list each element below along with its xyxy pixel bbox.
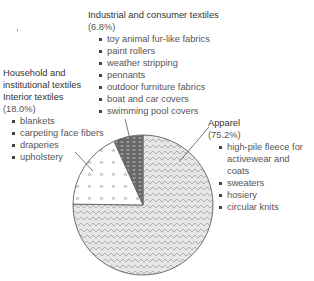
label-apparel-percent: (75.2%) [208, 129, 314, 141]
list-item-line1: high-pile fleece for [227, 141, 314, 153]
label-industrial-list: toy animal fur-like fabrics paint roller… [98, 33, 219, 117]
label-industrial-percent: (6.8%) [88, 21, 219, 33]
leader-line-industrial [125, 119, 130, 139]
list-item: hosiery [218, 189, 314, 201]
label-household-percent: (18.0%) [3, 103, 104, 115]
label-household-title-line3: Interior textiles [3, 91, 104, 103]
list-item: circular knits [218, 201, 314, 213]
label-apparel-list: high-pile fleece for activewear and coat… [218, 141, 314, 213]
list-item: boat and car covers [98, 93, 219, 105]
label-household-title-line1: Household and [3, 67, 104, 79]
label-apparel: Apparel (75.2%) high-pile fleece for act… [208, 117, 314, 213]
list-item: weather stripping [98, 57, 219, 69]
label-household-title-line2: institutional textiles [3, 79, 104, 91]
list-item: paint rollers [98, 45, 219, 57]
label-apparel-title: Apparel [208, 117, 314, 129]
label-industrial: Industrial and consumer textiles (6.8%) … [88, 9, 219, 117]
list-item: blankets [11, 115, 104, 127]
list-item: pennants [98, 69, 219, 81]
list-item: sweaters [218, 177, 314, 189]
label-household-list: blankets carpeting face fibers draperies… [11, 115, 104, 163]
list-item: toy animal fur-like fabrics [98, 33, 219, 45]
label-industrial-title: Industrial and consumer textiles [88, 9, 219, 21]
list-item: carpeting face fibers [11, 127, 104, 139]
list-item: high-pile fleece for activewear and coat… [218, 141, 314, 177]
list-item: draperies [11, 139, 104, 151]
list-item: swimming pool covers [98, 105, 219, 117]
list-item: outdoor furniture fabrics [98, 81, 219, 93]
list-item-line2: activewear and coats [227, 153, 314, 177]
list-item: upholstery [11, 151, 104, 163]
label-household: Household and institutional textiles Int… [3, 67, 104, 163]
